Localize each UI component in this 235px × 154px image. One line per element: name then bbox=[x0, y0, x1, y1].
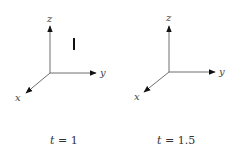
diagram-canvas: z y x z y x bbox=[0, 0, 235, 154]
y-axis-label: y bbox=[99, 67, 106, 78]
time-value: 1 bbox=[71, 134, 78, 147]
x-axis-label: x bbox=[134, 91, 140, 102]
axes-panel-2: z y x bbox=[134, 12, 225, 102]
time-value: 1.5 bbox=[178, 134, 196, 147]
vertical-bar-object bbox=[73, 38, 75, 50]
x-axis bbox=[144, 72, 169, 92]
equals-sign: = bbox=[54, 134, 70, 147]
x-axis-label: x bbox=[15, 92, 21, 103]
axes-panel-1: z y x bbox=[15, 13, 106, 103]
y-axis-label: y bbox=[218, 66, 225, 77]
caption-panel-1: t = 1 bbox=[50, 134, 78, 147]
z-axis-label: z bbox=[46, 13, 53, 24]
caption-panel-2: t = 1.5 bbox=[157, 134, 195, 147]
equals-sign: = bbox=[161, 134, 177, 147]
x-axis bbox=[26, 73, 50, 93]
z-axis-label: z bbox=[165, 12, 172, 23]
